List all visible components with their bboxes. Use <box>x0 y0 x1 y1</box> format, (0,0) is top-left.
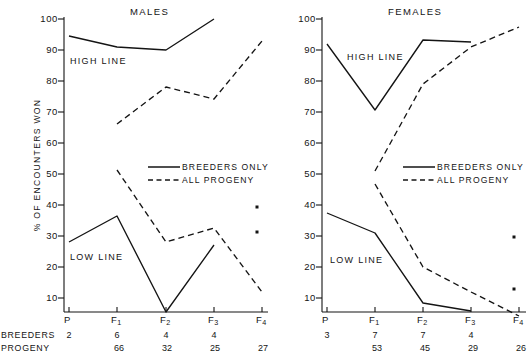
series-females-high-breeders <box>327 40 471 110</box>
table-cell-females-progeny-f4: 26 <box>516 343 526 353</box>
xtick-f4-males: F4 <box>256 314 267 325</box>
series-females-low-progeny <box>375 184 519 316</box>
isolated-point-males-1 <box>256 206 259 209</box>
annotation-high-line-females: HIGH LINE <box>347 52 404 62</box>
series-males-high-breeders <box>69 19 214 50</box>
table-cell-females-breeders-f3: 4 <box>468 330 473 340</box>
annotation-low-line-females: LOW LINE <box>330 255 383 265</box>
annotation-low-line-males: LOW LINE <box>70 252 123 262</box>
table-cell-males-progeny-f4: 27 <box>258 343 268 353</box>
figure-container: % OF ENCOUNTERS WON MALES FEMALES 100 90… <box>0 0 532 359</box>
table-cell-males-breeders-f2: 4 <box>163 330 168 340</box>
xtick-f3-males: F3 <box>208 314 219 325</box>
table-cell-females-progeny-f2: 45 <box>420 343 430 353</box>
annotation-high-line-males: HIGH LINE <box>70 56 127 66</box>
xtick-p-males: P <box>64 314 71 325</box>
table-cell-males-breeders-f3: 4 <box>211 330 216 340</box>
table-cell-males-breeders-f1: 6 <box>114 330 119 340</box>
table-cell-females-progeny-f3: 29 <box>468 343 478 353</box>
table-cell-females-breeders-f2: 7 <box>420 330 425 340</box>
row-label-breeders: BREEDERS <box>1 330 55 340</box>
isolated-point-females-2 <box>513 288 516 291</box>
legend-label-breeders-females: BREEDERS ONLY <box>437 162 524 172</box>
series-males-low-progeny <box>117 170 262 292</box>
table-cell-females-progeny-f1: 53 <box>372 343 382 353</box>
isolated-point-females-1 <box>513 236 516 239</box>
series-females-high-progeny <box>375 27 519 171</box>
legend-label-progeny-males: ALL PROGENY <box>182 175 254 185</box>
series-males-high-progeny <box>117 41 262 124</box>
table-cell-females-breeders-p: 3 <box>324 330 329 340</box>
row-label-progeny: PROGENY <box>1 343 50 353</box>
table-cell-males-progeny-f3: 25 <box>210 343 220 353</box>
xtick-f1-females: F1 <box>369 314 380 325</box>
table-cell-males-progeny-f1: 66 <box>114 343 124 353</box>
table-cell-males-breeders-p: 2 <box>66 330 71 340</box>
xtick-f1-males: F1 <box>111 314 122 325</box>
xtick-f3-females: F3 <box>465 314 476 325</box>
xtick-f2-females: F2 <box>417 314 428 325</box>
legend-label-breeders-males: BREEDERS ONLY <box>182 162 269 172</box>
xtick-f2-males: F2 <box>160 314 171 325</box>
xtick-f4-females: F4 <box>513 314 524 325</box>
table-cell-males-progeny-f2: 32 <box>162 343 172 353</box>
series-males-low-breeders <box>69 216 214 312</box>
table-cell-females-breeders-f1: 7 <box>372 330 377 340</box>
legend-label-progeny-females: ALL PROGENY <box>437 175 509 185</box>
xtick-p-females: P <box>322 314 329 325</box>
isolated-point-males-2 <box>256 231 259 234</box>
